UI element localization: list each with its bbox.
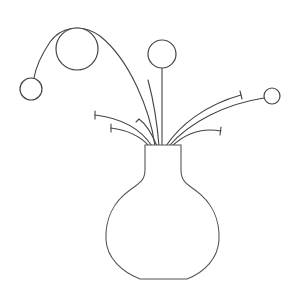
illustration-canvas — [0, 0, 298, 299]
stem-right-2 — [169, 98, 264, 146]
vase — [106, 145, 219, 279]
center-bloom-icon — [148, 40, 176, 68]
vase-with-flowers-drawing — [0, 0, 298, 299]
small-left-bloom-icon — [20, 78, 42, 100]
stem-left-2 — [111, 128, 149, 146]
stem-right-1 — [166, 95, 241, 146]
stem-right-3 — [172, 130, 221, 146]
right-bloom-icon — [264, 88, 280, 104]
stem-right-3-tick — [220, 127, 221, 135]
blooms — [20, 28, 280, 104]
large-bloom-icon — [56, 28, 98, 70]
